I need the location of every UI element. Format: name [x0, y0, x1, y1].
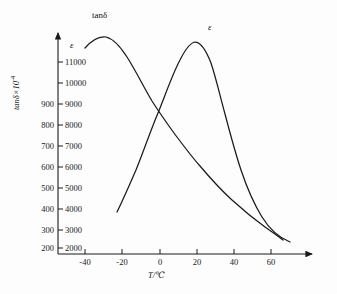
y-axis-epsilon-scale-label: ε: [70, 40, 74, 50]
x-tick-label-20: 20: [183, 258, 211, 267]
curve-label-tandelta: tanδ: [92, 10, 107, 20]
y-axis-title-exponent: -4: [9, 76, 16, 81]
x-tick-label-60: 60: [257, 258, 285, 267]
x-tick-label-minus40: -40: [71, 258, 99, 267]
chart-figure: 11000 10000 9000 8000 7000 6000 5000 400…: [0, 0, 337, 294]
x-tick-label-0: 0: [146, 258, 174, 267]
y-tick-label-epsilon-6000: 6000: [65, 163, 82, 172]
curve-epsilon: [117, 42, 290, 242]
x-axis-ticks: [85, 249, 271, 254]
y-axis-title: tanδ×10-4: [9, 76, 21, 110]
x-axis-title-text: T/℃: [148, 270, 165, 280]
y-tick-label-tandelta-500: 500: [26, 184, 54, 193]
x-tick-label-40: 40: [220, 258, 248, 267]
y-tick-label-epsilon-7000: 7000: [65, 142, 82, 151]
y-tick-label-epsilon-11000: 11000: [65, 58, 86, 67]
x-axis-title: T/℃: [148, 270, 165, 280]
y-tick-label-epsilon-2000: 2000: [65, 244, 82, 253]
curve-label-epsilon: ε: [208, 22, 212, 32]
y-tick-label-tandelta-400: 400: [26, 205, 54, 214]
y-tick-label-tandelta-800: 800: [26, 121, 54, 130]
y-tick-label-tandelta-600: 600: [26, 163, 54, 172]
y-axis-ticks: [58, 62, 63, 248]
y-tick-label-tandelta-700: 700: [26, 142, 54, 151]
x-tick-label-minus20: -20: [108, 258, 136, 267]
y-tick-label-epsilon-5000: 5000: [65, 184, 82, 193]
y-axis-title-text: tanδ×10: [11, 81, 21, 110]
y-tick-label-tandelta-200: 200: [26, 244, 54, 253]
y-tick-label-tandelta-300: 300: [26, 226, 54, 235]
curve-tandelta: [85, 37, 283, 240]
y-tick-label-epsilon-10000: 10000: [65, 79, 86, 88]
y-tick-label-tandelta-900: 900: [26, 100, 54, 109]
y-tick-label-epsilon-4000: 4000: [65, 205, 82, 214]
y-tick-label-epsilon-8000: 8000: [65, 121, 82, 130]
y-tick-label-epsilon-3000: 3000: [65, 226, 82, 235]
y-tick-label-epsilon-9000: 9000: [65, 100, 82, 109]
